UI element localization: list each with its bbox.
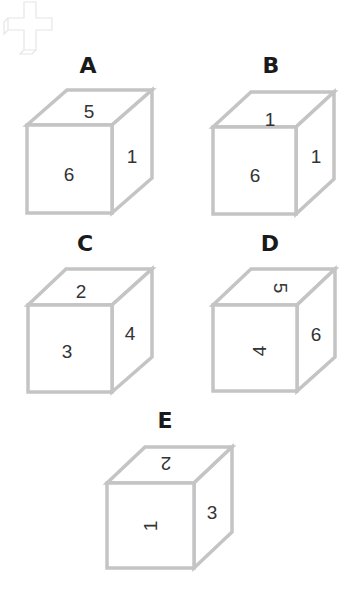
cube-b-top-number: 1 — [265, 109, 276, 130]
cube-b-right-number: 1 — [311, 146, 322, 167]
cube-e-right-number: 3 — [207, 502, 218, 523]
cube-a-right-number: 1 — [127, 146, 138, 167]
cube-e-front-number: 1 — [140, 521, 161, 532]
cube-d-right-number: 6 — [311, 324, 322, 345]
cube-b-front-number: 6 — [250, 165, 261, 186]
cube-d-top-number: 5 — [270, 283, 291, 294]
cube-c-right-number: 4 — [125, 323, 136, 344]
cube-c-top-number: 2 — [76, 281, 87, 302]
cube-e-top-number: 2 — [161, 453, 172, 474]
cube-c-front-number: 3 — [62, 341, 73, 362]
cube-a-front-number: 6 — [64, 164, 75, 185]
dice-puzzle-figure: A B C D E — [0, 0, 361, 600]
cube-d-front-number: 4 — [249, 345, 270, 356]
cube-a-top-number: 5 — [84, 101, 95, 122]
